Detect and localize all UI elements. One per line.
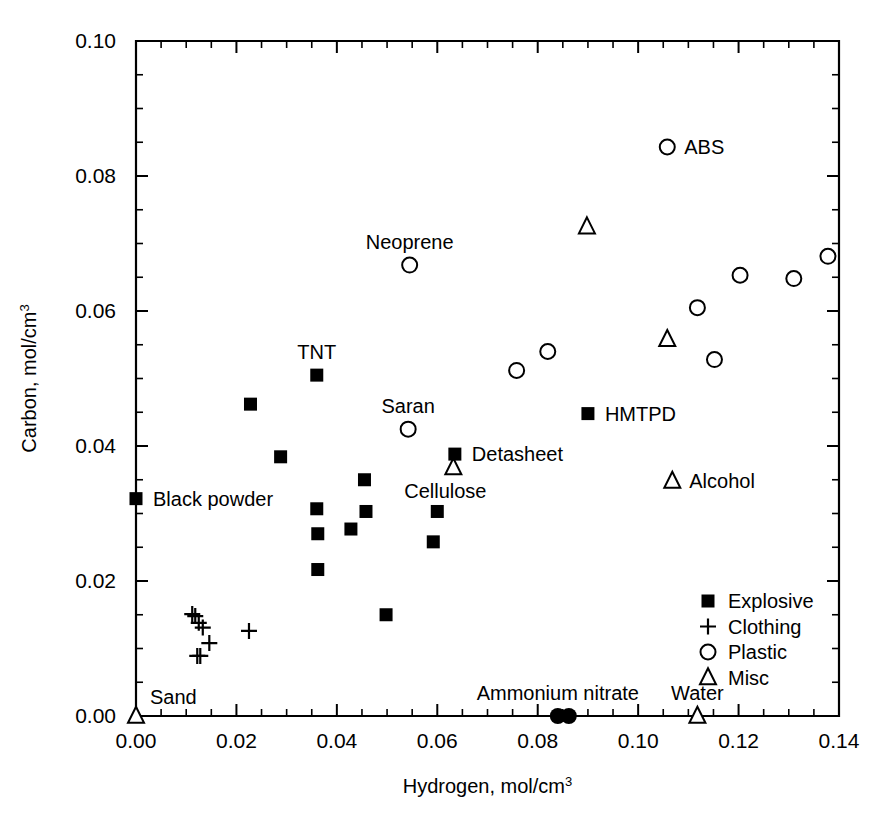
y-tick-label: 0.02 (75, 569, 116, 592)
point-label: ABS (684, 136, 724, 158)
data-point-plastic[interactable] (660, 139, 675, 154)
y-tick-label: 0.00 (75, 704, 116, 727)
data-point-explosive[interactable] (244, 398, 257, 411)
x-tick-label: 0.04 (316, 729, 357, 752)
legend-label-explosive: Explosive (728, 590, 814, 612)
point-label: Ammonium nitrate (477, 682, 639, 704)
point-label: TNT (297, 341, 336, 363)
x-tick-label: 0.08 (517, 729, 558, 752)
y-axis-title: Carbon, mol/cm3 (17, 304, 40, 452)
legend-marker-clothing[interactable] (700, 619, 716, 635)
data-point-explosive[interactable] (311, 527, 324, 540)
point-label: Water (671, 682, 724, 704)
x-tick-label: 0.14 (819, 729, 860, 752)
data-point-plastic[interactable] (690, 300, 705, 315)
data-point-clothing[interactable] (187, 608, 203, 624)
point-label: HMTPD (605, 403, 676, 425)
point-label: Saran (381, 395, 434, 417)
x-tick-label: 0.00 (116, 729, 157, 752)
data-point-plastic[interactable] (402, 258, 417, 273)
point-label: Sand (150, 686, 197, 708)
plot-canvas: 0.000.020.040.060.080.100.120.140.000.02… (0, 0, 885, 833)
point-label: Neoprene (366, 231, 454, 253)
data-point-plastic[interactable] (733, 268, 748, 283)
point-label: Detasheet (472, 443, 564, 465)
legend-marker-explosive[interactable] (702, 595, 715, 608)
x-axis-title: Hydrogen, mol/cm3 (403, 774, 573, 797)
data-point-explosive[interactable] (359, 505, 372, 518)
data-point-explosive[interactable] (311, 563, 324, 576)
y-tick-label: 0.08 (75, 164, 116, 187)
data-point-explosive[interactable] (358, 473, 371, 486)
data-point-clothing[interactable] (201, 635, 217, 651)
point-label: Cellulose (404, 480, 486, 502)
x-tick-label: 0.02 (216, 729, 257, 752)
data-point-explosive[interactable] (344, 523, 357, 536)
y-tick-label: 0.06 (75, 299, 116, 322)
data-point-plastic[interactable] (509, 363, 524, 378)
data-point-misc[interactable] (689, 707, 705, 723)
legend-marker-misc[interactable] (700, 668, 716, 684)
data-point-plastic[interactable] (540, 344, 555, 359)
data-point-explosive[interactable] (427, 535, 440, 548)
data-point-explosive[interactable] (380, 608, 393, 621)
y-tick-label: 0.10 (75, 29, 116, 52)
data-point-plastic[interactable] (707, 352, 722, 367)
data-point-misc[interactable] (128, 707, 144, 723)
legend-label-clothing: Clothing (728, 616, 801, 638)
data-point-misc[interactable] (445, 458, 461, 474)
point-label: Black powder (153, 488, 273, 510)
y-tick-label: 0.04 (75, 434, 116, 457)
data-point-explosive[interactable] (130, 492, 143, 505)
x-tick-label: 0.12 (718, 729, 759, 752)
data-point-explosive[interactable] (581, 407, 594, 420)
data-point-plastic[interactable] (786, 271, 801, 286)
data-point-explosive[interactable] (310, 502, 323, 515)
data-point-explosive[interactable] (310, 369, 323, 382)
data-point-clothing[interactable] (192, 648, 208, 664)
legend-label-plastic: Plastic (728, 641, 787, 663)
data-point-misc[interactable] (664, 472, 680, 488)
data-point-plastic[interactable] (820, 249, 835, 264)
data-point-explosive[interactable] (431, 505, 444, 518)
data-point-explosive[interactable] (274, 450, 287, 463)
x-tick-label: 0.10 (618, 729, 659, 752)
legend-marker-plastic[interactable] (701, 645, 716, 660)
data-point-explosive[interactable] (448, 448, 461, 461)
data-point-clothing[interactable] (241, 623, 257, 639)
data-point-plastic[interactable] (401, 422, 416, 437)
scatter-chart-figure: 0.000.020.040.060.080.100.120.140.000.02… (0, 0, 885, 833)
point-label: Alcohol (689, 470, 755, 492)
data-point-misc[interactable] (579, 217, 595, 233)
data-point-misc[interactable] (659, 330, 675, 346)
legend-label-misc: Misc (728, 667, 769, 689)
x-tick-label: 0.06 (417, 729, 458, 752)
data-point-ammonium-nitrate[interactable] (561, 708, 577, 724)
